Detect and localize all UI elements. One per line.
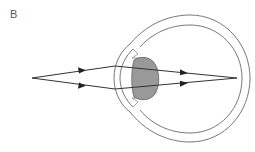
arrow-icon bbox=[180, 69, 188, 75]
arrow-icon bbox=[78, 82, 86, 88]
arrow-icon bbox=[180, 81, 188, 87]
cornea-outer bbox=[114, 44, 130, 112]
cornea-inner bbox=[120, 49, 133, 107]
lens bbox=[132, 57, 159, 99]
iris-upper bbox=[132, 49, 140, 58]
eye-diagram bbox=[0, 0, 255, 152]
arrow-icon bbox=[78, 67, 86, 73]
